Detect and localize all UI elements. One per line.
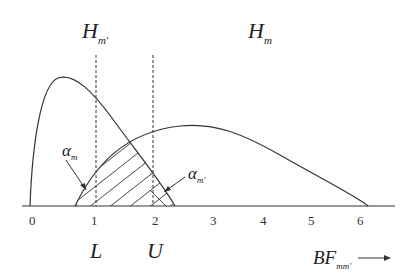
label-U: U <box>147 238 163 264</box>
title-h-m-main: H <box>248 18 264 43</box>
x-axis-label-arrowhead <box>384 255 391 261</box>
title-h-m: Hm <box>248 18 272 44</box>
tick-1: 1 <box>91 213 98 229</box>
title-h-m-prime: Hm' <box>82 18 108 44</box>
tick-4: 4 <box>260 213 267 229</box>
title-h-m-sub: m <box>264 34 272 46</box>
tick-5: 5 <box>308 213 315 229</box>
alpha-m-main: α <box>62 141 71 160</box>
tick-3: 3 <box>210 213 217 229</box>
title-h-m-prime-main: H <box>82 18 98 43</box>
alpha-m-prime-arrowhead <box>164 186 171 192</box>
x-axis-label: BFmm' <box>313 247 351 269</box>
title-h-m-prime-sub: m' <box>98 34 108 46</box>
overlap-hatching <box>0 120 300 230</box>
alpha-m-prime-main: α <box>188 164 197 183</box>
alpha-m-arrowhead <box>80 183 86 190</box>
diagram: Hm' Hm αm αm' 0 1 2 3 4 5 6 L U BFmm' <box>0 0 415 280</box>
alpha-m-prime-sub: m' <box>197 175 205 185</box>
label-alpha-m-prime: αm' <box>188 164 205 184</box>
tick-6: 6 <box>357 213 364 229</box>
curve-h-m <box>75 125 368 206</box>
x-axis-label-sub: mm' <box>336 261 351 271</box>
label-L: L <box>90 238 102 264</box>
tick-0: 0 <box>29 213 36 229</box>
tick-2: 2 <box>152 213 159 229</box>
alpha-m-sub: m <box>71 152 78 162</box>
diagram-canvas <box>0 0 415 280</box>
label-alpha-m: αm <box>62 141 77 161</box>
x-axis-label-main: BF <box>313 247 336 268</box>
